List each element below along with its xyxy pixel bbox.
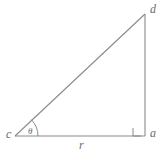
hypotenuse-line xyxy=(15,14,145,136)
triangle-diagram-svg xyxy=(0,0,167,155)
vertex-label-c: c xyxy=(6,128,11,140)
right-angle-marker xyxy=(133,128,141,136)
vertex-label-a: a xyxy=(150,127,156,139)
vertex-label-d: d xyxy=(150,3,156,15)
angle-label-theta: θ xyxy=(28,127,32,136)
triangle-figure: c d a r θ xyxy=(0,0,167,155)
side-label-r: r xyxy=(79,139,84,151)
